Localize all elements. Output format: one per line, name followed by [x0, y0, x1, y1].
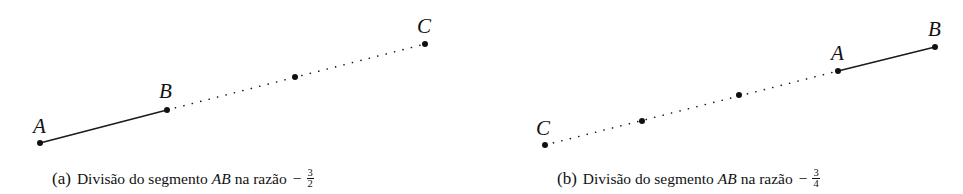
- segment-ca-dotted: [545, 71, 838, 145]
- caption-fraction: 3 2: [307, 168, 314, 189]
- segment-ab-solid: [40, 110, 167, 143]
- caption-b: (b) Divisão do segmento AB na razão − 3 …: [557, 168, 820, 189]
- figure-a: A B C (a) Divisão do segmento AB na razã…: [0, 0, 480, 194]
- point-midpoint: [292, 74, 298, 80]
- point-division-2: [736, 92, 742, 98]
- figure-b: C A B (b) Divisão do segmento AB na razã…: [480, 0, 963, 194]
- caption-segment: AB: [212, 170, 231, 188]
- caption-tag: (b): [557, 169, 577, 189]
- caption-fraction: 3 4: [812, 168, 819, 189]
- point-c: [542, 142, 548, 148]
- caption-mid: na razão: [235, 170, 287, 188]
- label-a: A: [829, 41, 844, 65]
- point-division-1: [639, 118, 645, 124]
- caption-text: Divisão do segmento: [77, 170, 208, 188]
- caption-a: (a) Divisão do segmento AB na razão − 3 …: [52, 168, 314, 189]
- label-b: B: [928, 17, 941, 41]
- point-a: [37, 140, 43, 146]
- caption-sign: −: [293, 170, 302, 188]
- figure-b-diagram: C A B: [480, 0, 963, 194]
- label-a: A: [31, 114, 46, 138]
- caption-mid: na razão: [741, 170, 793, 188]
- caption-segment: AB: [718, 170, 737, 188]
- caption-tag: (a): [52, 169, 71, 189]
- segment-ab-solid: [838, 47, 935, 71]
- label-c: C: [536, 116, 551, 140]
- label-b: B: [159, 79, 172, 103]
- caption-sign: −: [799, 170, 808, 188]
- fraction-denominator: 4: [813, 179, 818, 189]
- point-b: [932, 44, 938, 50]
- fraction-denominator: 2: [308, 179, 313, 189]
- point-a: [835, 68, 841, 74]
- label-c: C: [417, 14, 432, 38]
- figure-a-diagram: A B C: [0, 0, 480, 194]
- point-c: [422, 41, 428, 47]
- caption-text: Divisão do segmento: [583, 170, 714, 188]
- point-b: [164, 107, 170, 113]
